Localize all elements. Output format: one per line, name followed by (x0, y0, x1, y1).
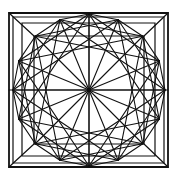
star-polygon-diagram (0, 0, 174, 178)
center-hub (87, 88, 91, 92)
geometric-star-figure (0, 0, 174, 178)
